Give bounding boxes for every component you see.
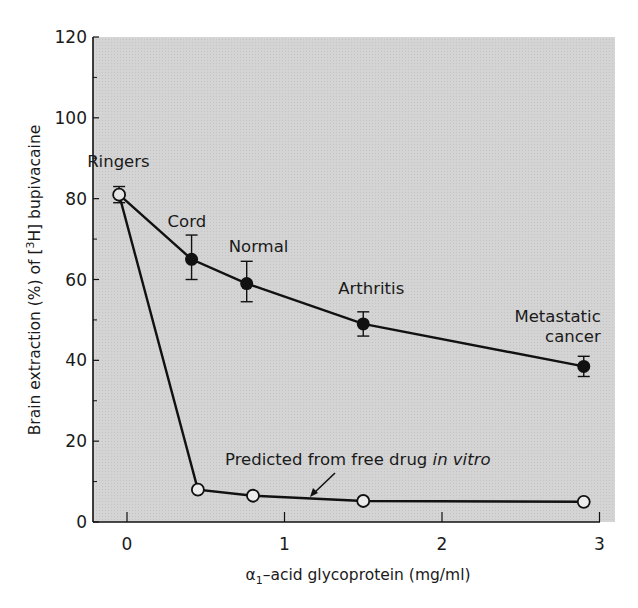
y-tick-label: 20 (65, 431, 87, 451)
y-tick-label: 120 (55, 27, 87, 47)
data-point-filled (357, 317, 370, 330)
x-axis-title: α1–acid glycoprotein (mg/ml) (245, 566, 470, 587)
x-tick-label: 3 (594, 534, 605, 554)
data-point-open (113, 189, 125, 201)
y-tick-label: 100 (55, 108, 87, 128)
point-label: Cord (168, 212, 207, 231)
data-point-open (192, 484, 204, 496)
y-tick-label: 0 (76, 512, 87, 532)
y-tick-label: 40 (65, 350, 87, 370)
point-label: Ringers (87, 152, 150, 171)
annotation-predicted: Predicted from free drug in vitro (225, 450, 491, 469)
chart: 0204060801001200123 RingersCordNormalArt… (0, 0, 638, 608)
x-tick-label: 1 (279, 534, 290, 554)
y-tick-label: 60 (65, 270, 87, 290)
point-label: Metastatic (514, 307, 600, 326)
x-tick-label: 2 (437, 534, 448, 554)
point-label: Arthritis (338, 279, 404, 298)
data-point-open (357, 495, 369, 507)
y-tick-label: 80 (65, 189, 87, 209)
point-label: cancer (545, 327, 601, 346)
y-axis-title: Brain extraction (%) of [3H] bupivacaine (24, 125, 44, 436)
data-point-open (247, 490, 259, 502)
point-label: Normal (229, 237, 289, 256)
data-point-filled (185, 253, 198, 266)
data-point-open (578, 496, 590, 508)
x-tick-label: 0 (122, 534, 133, 554)
data-point-filled (577, 360, 590, 373)
data-point-filled (240, 277, 253, 290)
